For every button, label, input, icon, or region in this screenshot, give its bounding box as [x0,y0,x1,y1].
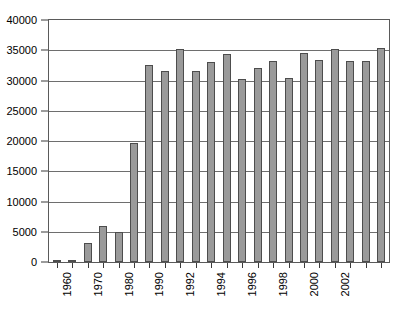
x-tick-label-1996: 1996 [246,272,258,296]
x-tick-mark-1995 [227,263,228,268]
x-tick-label-1998: 1998 [277,272,289,296]
y-tick-mark-15000 [41,171,48,172]
bar-1990 [145,65,153,262]
x-tick-mark-1965 [72,263,73,268]
bar-1985 [130,143,138,262]
y-tick-mark-0 [41,262,48,263]
x-tick-mark-1998 [273,263,274,268]
y-tick-mark-30000 [41,80,48,81]
bar-1965 [68,260,76,262]
y-tick-label-0: 0 [31,256,37,268]
bar-2005 [377,48,385,262]
x-axis: 1960197019801990199219941996199820002002 [48,263,390,310]
y-tick-label-20000: 20000 [6,135,37,147]
x-tick-mark-1994 [211,263,212,268]
x-tick-mark-2003 [350,263,351,268]
x-tick-label-2000: 2000 [308,272,320,296]
y-tick-label-5000: 5000 [13,226,37,238]
bar-1998 [269,61,277,262]
x-tick-mark-2002 [335,263,336,268]
bar-2000 [300,53,308,262]
x-tick-mark-1999 [289,263,290,268]
x-tick-mark-1960 [57,263,58,268]
bar-1960 [53,260,61,262]
x-tick-mark-2005 [381,263,382,268]
bar-2004 [362,61,370,262]
x-tick-mark-2000 [304,263,305,268]
y-tick-label-10000: 10000 [6,196,37,208]
x-tick-label-1992: 1992 [184,272,196,296]
x-tick-label-2002: 2002 [339,272,351,296]
y-tick-label-40000: 40000 [6,14,37,26]
x-tick-mark-1992 [180,263,181,268]
x-tick-mark-1993 [196,263,197,268]
bar-2002 [331,49,339,262]
x-tick-mark-1996 [242,263,243,268]
bar-1993 [192,71,200,262]
bar-1992 [176,49,184,262]
bar-1991 [161,71,169,262]
y-tick-mark-10000 [41,201,48,202]
bar-2003 [346,61,354,262]
bars-layer [49,20,389,262]
bar-1975 [99,226,107,262]
bar-2001 [315,60,323,262]
x-tick-mark-1975 [103,263,104,268]
x-tick-label-1990: 1990 [153,272,165,296]
y-tick-label-15000: 15000 [6,165,37,177]
y-tick-mark-5000 [41,231,48,232]
x-tick-label-1960: 1960 [61,272,73,296]
y-tick-label-30000: 30000 [6,75,37,87]
y-tick-mark-25000 [41,110,48,111]
x-tick-mark-1997 [258,263,259,268]
bar-1995 [223,54,231,262]
x-tick-mark-2004 [366,263,367,268]
y-tick-mark-40000 [41,20,48,21]
plot-area [48,19,390,263]
bar-1980 [115,232,123,262]
y-tick-mark-35000 [41,50,48,51]
bar-1994 [207,62,215,262]
x-tick-mark-1991 [165,263,166,268]
x-tick-label-1994: 1994 [215,272,227,296]
x-tick-mark-1985 [134,263,135,268]
bar-1996 [238,79,246,262]
bar-1999 [285,78,293,262]
y-tick-label-35000: 35000 [6,44,37,56]
bar-chart: 0500010000150002000025000300003500040000… [0,0,400,310]
bar-1997 [254,68,262,262]
x-tick-mark-1990 [149,263,150,268]
x-tick-mark-2001 [319,263,320,268]
y-tick-mark-20000 [41,141,48,142]
y-axis: 0500010000150002000025000300003500040000 [0,19,48,263]
x-tick-mark-1980 [119,263,120,268]
y-tick-label-25000: 25000 [6,105,37,117]
x-tick-label-1980: 1980 [123,272,135,296]
bar-1970 [84,243,92,262]
x-tick-mark-1970 [88,263,89,268]
x-tick-label-1970: 1970 [92,272,104,296]
